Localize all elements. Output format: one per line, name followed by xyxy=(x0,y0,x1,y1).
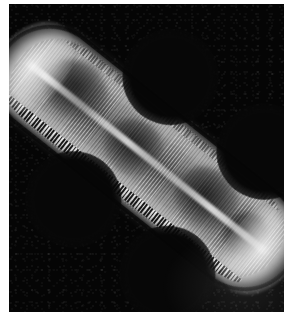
figure-caption xyxy=(9,314,284,330)
micrograph-plate xyxy=(9,4,284,312)
micrograph-page xyxy=(0,0,288,332)
diatom-specimen xyxy=(9,8,284,309)
